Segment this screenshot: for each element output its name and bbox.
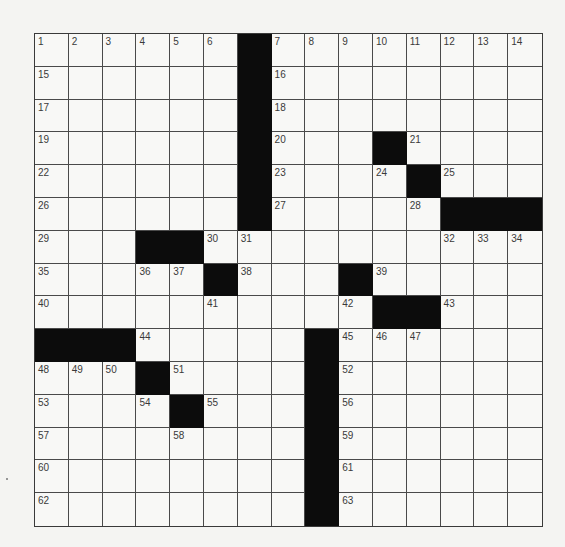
grid-cell-r5-c11[interactable]: 24: [373, 165, 407, 198]
grid-cell-r4-c14[interactable]: [474, 132, 508, 165]
grid-cell-r12-c14[interactable]: [474, 395, 508, 428]
grid-cell-r3-c3[interactable]: [103, 100, 137, 133]
grid-cell-r14-c10[interactable]: 61: [339, 460, 373, 493]
grid-cell-r9-c3[interactable]: [103, 296, 137, 329]
grid-cell-r6-c11[interactable]: [373, 198, 407, 231]
grid-cell-r1-c11[interactable]: 10: [373, 34, 407, 67]
grid-cell-r2-c11[interactable]: [373, 67, 407, 100]
grid-cell-r1-c15[interactable]: 14: [508, 34, 542, 67]
grid-cell-r4-c8[interactable]: 20: [272, 132, 306, 165]
grid-cell-r6-c5[interactable]: [170, 198, 204, 231]
grid-cell-r14-c15[interactable]: [508, 460, 542, 493]
grid-cell-r1-c1[interactable]: 1: [35, 34, 69, 67]
grid-cell-r3-c6[interactable]: [204, 100, 238, 133]
grid-cell-r3-c2[interactable]: [69, 100, 103, 133]
grid-cell-r14-c7[interactable]: [238, 460, 272, 493]
grid-cell-r5-c6[interactable]: [204, 165, 238, 198]
grid-cell-r8-c14[interactable]: [474, 264, 508, 297]
grid-cell-r7-c3[interactable]: [103, 231, 137, 264]
grid-cell-r2-c8[interactable]: 16: [272, 67, 306, 100]
grid-cell-r15-c2[interactable]: [69, 493, 103, 526]
grid-cell-r1-c6[interactable]: 6: [204, 34, 238, 67]
grid-cell-r13-c11[interactable]: [373, 428, 407, 461]
grid-cell-r15-c12[interactable]: [407, 493, 441, 526]
grid-cell-r4-c10[interactable]: [339, 132, 373, 165]
grid-cell-r4-c6[interactable]: [204, 132, 238, 165]
grid-cell-r9-c2[interactable]: [69, 296, 103, 329]
grid-cell-r5-c8[interactable]: 23: [272, 165, 306, 198]
grid-cell-r3-c5[interactable]: [170, 100, 204, 133]
grid-cell-r4-c2[interactable]: [69, 132, 103, 165]
grid-cell-r10-c13[interactable]: [441, 329, 475, 362]
grid-cell-r14-c8[interactable]: [272, 460, 306, 493]
grid-cell-r10-c15[interactable]: [508, 329, 542, 362]
grid-cell-r5-c14[interactable]: [474, 165, 508, 198]
grid-cell-r5-c1[interactable]: 22: [35, 165, 69, 198]
grid-cell-r4-c13[interactable]: [441, 132, 475, 165]
grid-cell-r14-c11[interactable]: [373, 460, 407, 493]
grid-cell-r15-c14[interactable]: [474, 493, 508, 526]
grid-cell-r11-c14[interactable]: [474, 362, 508, 395]
grid-cell-r8-c5[interactable]: 37: [170, 264, 204, 297]
grid-cell-r7-c1[interactable]: 29: [35, 231, 69, 264]
grid-cell-r10-c12[interactable]: 47: [407, 329, 441, 362]
grid-cell-r6-c1[interactable]: 26: [35, 198, 69, 231]
grid-cell-r3-c10[interactable]: [339, 100, 373, 133]
grid-cell-r2-c9[interactable]: [305, 67, 339, 100]
grid-cell-r1-c12[interactable]: 11: [407, 34, 441, 67]
grid-cell-r9-c13[interactable]: 43: [441, 296, 475, 329]
grid-cell-r13-c2[interactable]: [69, 428, 103, 461]
grid-cell-r2-c2[interactable]: [69, 67, 103, 100]
grid-cell-r15-c7[interactable]: [238, 493, 272, 526]
grid-cell-r6-c10[interactable]: [339, 198, 373, 231]
grid-cell-r2-c4[interactable]: [136, 67, 170, 100]
grid-cell-r7-c10[interactable]: [339, 231, 373, 264]
grid-cell-r9-c15[interactable]: [508, 296, 542, 329]
grid-cell-r11-c3[interactable]: 50: [103, 362, 137, 395]
grid-cell-r7-c8[interactable]: [272, 231, 306, 264]
grid-cell-r12-c13[interactable]: [441, 395, 475, 428]
grid-cell-r14-c2[interactable]: [69, 460, 103, 493]
grid-cell-r6-c3[interactable]: [103, 198, 137, 231]
grid-cell-r10-c5[interactable]: [170, 329, 204, 362]
grid-cell-r8-c3[interactable]: [103, 264, 137, 297]
grid-cell-r15-c11[interactable]: [373, 493, 407, 526]
grid-cell-r11-c11[interactable]: [373, 362, 407, 395]
grid-cell-r14-c3[interactable]: [103, 460, 137, 493]
grid-cell-r11-c2[interactable]: 49: [69, 362, 103, 395]
grid-cell-r7-c12[interactable]: [407, 231, 441, 264]
grid-cell-r14-c6[interactable]: [204, 460, 238, 493]
grid-cell-r11-c8[interactable]: [272, 362, 306, 395]
grid-cell-r11-c12[interactable]: [407, 362, 441, 395]
grid-cell-r1-c4[interactable]: 4: [136, 34, 170, 67]
grid-cell-r14-c13[interactable]: [441, 460, 475, 493]
grid-cell-r14-c5[interactable]: [170, 460, 204, 493]
grid-cell-r11-c15[interactable]: [508, 362, 542, 395]
grid-cell-r1-c10[interactable]: 9: [339, 34, 373, 67]
grid-cell-r4-c4[interactable]: [136, 132, 170, 165]
grid-cell-r7-c7[interactable]: 31: [238, 231, 272, 264]
grid-cell-r3-c13[interactable]: [441, 100, 475, 133]
grid-cell-r3-c1[interactable]: 17: [35, 100, 69, 133]
grid-cell-r13-c7[interactable]: [238, 428, 272, 461]
grid-cell-r9-c6[interactable]: 41: [204, 296, 238, 329]
grid-cell-r6-c4[interactable]: [136, 198, 170, 231]
grid-cell-r12-c12[interactable]: [407, 395, 441, 428]
grid-cell-r1-c9[interactable]: 8: [305, 34, 339, 67]
grid-cell-r7-c9[interactable]: [305, 231, 339, 264]
grid-cell-r1-c13[interactable]: 12: [441, 34, 475, 67]
grid-cell-r2-c1[interactable]: 15: [35, 67, 69, 100]
grid-cell-r5-c9[interactable]: [305, 165, 339, 198]
grid-cell-r2-c14[interactable]: [474, 67, 508, 100]
grid-cell-r11-c7[interactable]: [238, 362, 272, 395]
grid-cell-r5-c15[interactable]: [508, 165, 542, 198]
grid-cell-r15-c8[interactable]: [272, 493, 306, 526]
grid-cell-r2-c3[interactable]: [103, 67, 137, 100]
grid-cell-r12-c4[interactable]: 54: [136, 395, 170, 428]
grid-cell-r14-c12[interactable]: [407, 460, 441, 493]
grid-cell-r12-c3[interactable]: [103, 395, 137, 428]
grid-cell-r4-c1[interactable]: 19: [35, 132, 69, 165]
grid-cell-r6-c2[interactable]: [69, 198, 103, 231]
grid-cell-r7-c2[interactable]: [69, 231, 103, 264]
grid-cell-r11-c13[interactable]: [441, 362, 475, 395]
